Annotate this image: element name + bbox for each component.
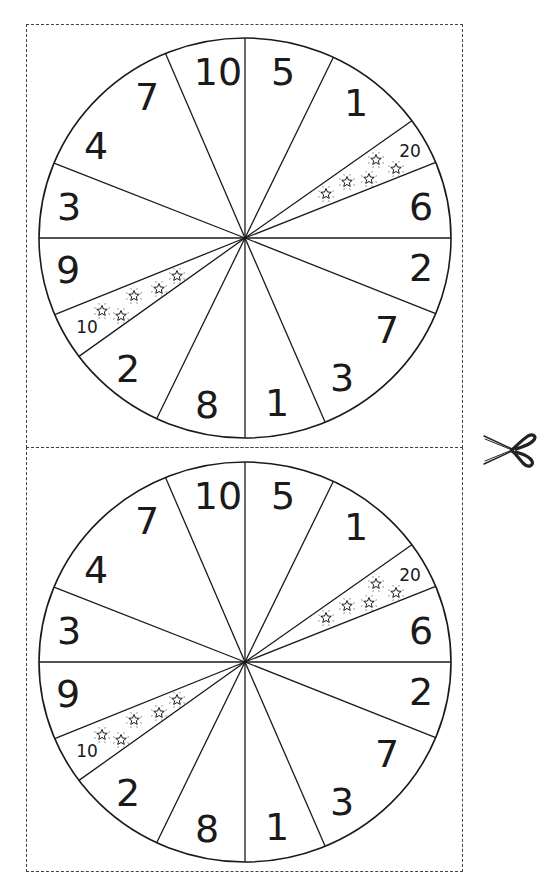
segment-label: 6 <box>409 609 433 653</box>
segment-label: 4 <box>84 548 108 592</box>
segment-label: 6 <box>409 185 433 229</box>
segment-label: 1 <box>344 505 368 549</box>
segment-label: 2 <box>409 246 433 290</box>
segment-label: 8 <box>195 807 219 851</box>
segment-label: 2 <box>116 771 140 815</box>
segment-label: 2 <box>116 347 140 391</box>
segment-label: 5 <box>271 474 295 518</box>
segment-label: 9 <box>56 672 80 716</box>
segment-label: 3 <box>57 609 81 653</box>
segment-label: 3 <box>330 780 354 824</box>
spinner-sheet: 10512062731821093471051206273182109347 <box>0 0 559 884</box>
segment-label: 10 <box>194 50 242 94</box>
wheel-top[interactable]: 1051206273182109347 <box>39 38 451 438</box>
segment-label: 7 <box>135 75 159 119</box>
segment-label: 3 <box>330 356 354 400</box>
segment-label: 1 <box>344 81 368 125</box>
wheel-bottom[interactable]: 1051206273182109347 <box>39 462 451 862</box>
spinner-wheels: 10512062731821093471051206273182109347 <box>0 0 559 884</box>
bonus-segment-label: 20 <box>399 141 421 161</box>
segment-label: 7 <box>135 499 159 543</box>
segment-label: 4 <box>84 124 108 168</box>
scissors-icon <box>482 430 538 470</box>
segment-label: 9 <box>56 248 80 292</box>
segment-label: 3 <box>57 185 81 229</box>
segment-label: 10 <box>194 474 242 518</box>
segment-label: 7 <box>375 732 399 776</box>
bonus-segment-label: 20 <box>399 565 421 585</box>
segment-label: 8 <box>195 383 219 427</box>
segment-label: 7 <box>375 308 399 352</box>
segment-label: 2 <box>409 670 433 714</box>
segment-label: 1 <box>265 805 289 849</box>
segment-label: 1 <box>265 381 289 425</box>
bonus-segment-label: 10 <box>76 317 98 337</box>
bonus-segment-label: 10 <box>76 741 98 761</box>
segment-label: 5 <box>271 50 295 94</box>
